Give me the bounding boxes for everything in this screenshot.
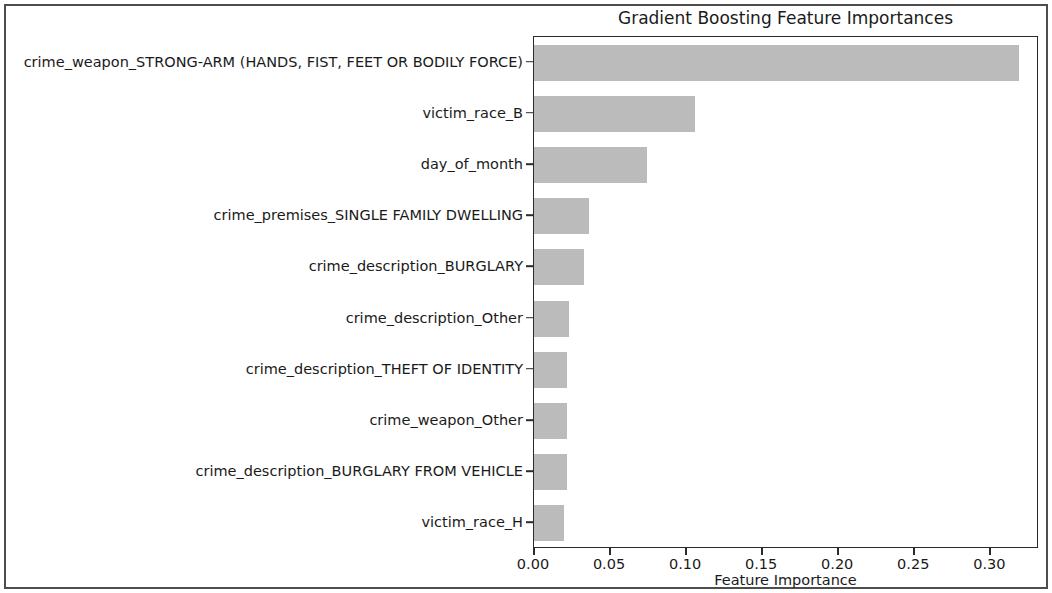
chart-title: Gradient Boosting Feature Importances [533, 8, 1038, 28]
y-tick-label: crime_description_BURGLARY [309, 258, 523, 274]
x-axis-title: Feature Importance [533, 572, 1038, 588]
x-tick-mark [685, 548, 687, 555]
x-tick-label: 0.10 [669, 556, 701, 572]
y-tick-mark [526, 470, 533, 472]
x-tick-mark [533, 548, 535, 555]
y-tick-label: victim_race_H [421, 514, 523, 530]
y-tick-mark [526, 317, 533, 319]
x-tick-label: 0.00 [517, 556, 549, 572]
bar [534, 403, 567, 439]
y-tick-label: victim_race_B [422, 105, 523, 121]
y-tick-mark [526, 266, 533, 268]
plot-area [533, 36, 1038, 548]
y-tick-mark [526, 163, 533, 165]
bar [534, 352, 567, 388]
x-tick-label: 0.25 [897, 556, 929, 572]
figure-canvas: Gradient Boosting Feature Importances cr… [0, 0, 1052, 593]
x-tick-label: 0.15 [745, 556, 777, 572]
x-tick-mark [989, 548, 991, 555]
y-tick-label: day_of_month [421, 156, 523, 172]
bar [534, 198, 589, 234]
y-tick-label: crime_description_THEFT OF IDENTITY [246, 361, 523, 377]
x-tick-mark [609, 548, 611, 555]
x-tick-label: 0.20 [821, 556, 853, 572]
y-axis-labels: crime_weapon_STRONG-ARM (HANDS, FIST, FE… [0, 36, 533, 548]
bar [534, 45, 1019, 81]
x-tick-mark [913, 548, 915, 555]
y-tick-mark [526, 522, 533, 524]
y-tick-mark [526, 61, 533, 63]
bar [534, 505, 564, 541]
y-tick-label: crime_weapon_Other [369, 412, 523, 428]
x-tick-mark [761, 548, 763, 555]
x-tick-label: 0.30 [973, 556, 1005, 572]
y-tick-mark [526, 112, 533, 114]
y-tick-label: crime_description_BURGLARY FROM VEHICLE [195, 463, 523, 479]
bar [534, 301, 569, 337]
y-tick-label: crime_description_Other [346, 310, 523, 326]
y-tick-label: crime_premises_SINGLE FAMILY DWELLING [214, 207, 523, 223]
bar [534, 147, 647, 183]
y-tick-label: crime_weapon_STRONG-ARM (HANDS, FIST, FE… [24, 54, 523, 70]
y-tick-mark [526, 214, 533, 216]
y-tick-mark [526, 368, 533, 370]
bar [534, 454, 567, 490]
x-tick-mark [837, 548, 839, 555]
bar [534, 96, 695, 132]
bar [534, 249, 584, 285]
bars-layer [534, 37, 1037, 547]
y-tick-mark [526, 419, 533, 421]
x-axis-ticks: 0.000.050.100.150.200.250.30 [533, 548, 1038, 574]
x-tick-label: 0.05 [593, 556, 625, 572]
